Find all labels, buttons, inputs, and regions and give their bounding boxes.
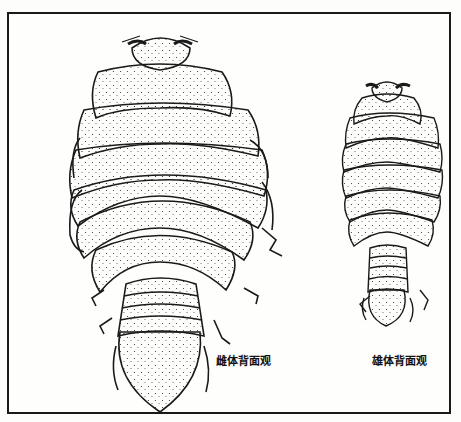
male-isopod xyxy=(342,82,442,326)
female-caption: 雌体背面观 xyxy=(216,352,271,368)
male-caption: 雄体背面观 xyxy=(372,352,427,368)
